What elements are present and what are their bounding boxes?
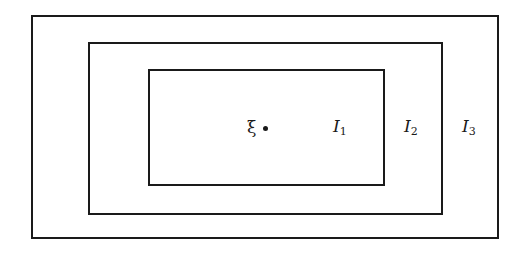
label-i1: I1 [333,118,347,137]
point-xi-label: ξ [247,119,256,136]
label-i3-letter: I [462,116,469,136]
label-i2-letter: I [404,116,411,136]
label-i3: I3 [462,118,476,137]
label-i3-subscript: 3 [469,125,476,138]
label-i2-subscript: 2 [411,125,418,138]
label-i2: I2 [404,118,418,137]
point-xi-dot [263,126,268,131]
label-i1-subscript: 1 [340,125,347,138]
label-i1-letter: I [333,116,340,136]
xi-symbol: ξ [247,117,256,137]
